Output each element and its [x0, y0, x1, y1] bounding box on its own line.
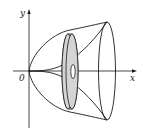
- washer-hole: [71, 65, 75, 79]
- origin-label: 0: [19, 73, 25, 83]
- solid-of-revolution-diagram: y x 0: [0, 0, 144, 134]
- y-axis-arrow-icon: [27, 9, 30, 14]
- x-axis-label: x: [130, 73, 135, 83]
- washer-slice: [62, 34, 78, 109]
- y-axis-label: y: [19, 8, 26, 18]
